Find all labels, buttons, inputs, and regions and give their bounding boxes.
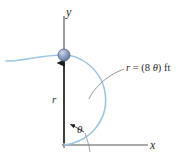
equation-units: ) ft: [158, 62, 171, 73]
y-axis-label: y: [66, 6, 71, 18]
angle-label: θ: [77, 124, 82, 135]
equation-operator: = (8: [130, 62, 153, 73]
radius-label: r: [52, 94, 56, 105]
equation-leader-line: [89, 69, 124, 99]
x-axis-label: x: [150, 139, 155, 151]
polar-spiral-diagram: [0, 0, 189, 165]
equation-callout-label: r = (8 θ) ft: [126, 63, 170, 74]
figure-container: y x r θ r = (8 θ) ft: [0, 0, 189, 165]
particle-marker: [58, 49, 70, 61]
